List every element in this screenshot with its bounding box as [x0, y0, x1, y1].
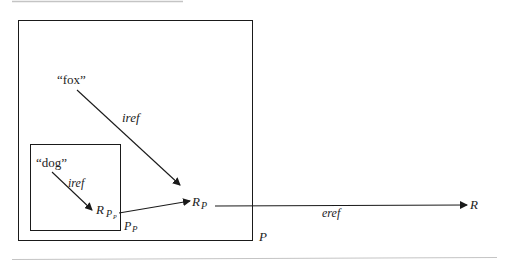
- svg-text:R: R: [95, 202, 104, 217]
- dog-label: “dog”: [36, 155, 67, 170]
- dog-iref-label: iref: [68, 176, 86, 190]
- outer-box-label: P: [258, 229, 267, 244]
- fox-iref-arrow: [77, 90, 180, 185]
- diagram-canvas: “fox” iref “dog” iref R P P R P P P P: [0, 0, 508, 269]
- inner-box-label: P P: [123, 219, 138, 234]
- svg-text:P: P: [112, 214, 117, 220]
- svg-text:R: R: [191, 194, 200, 209]
- outer-box-p: [19, 21, 253, 241]
- r-p-label: R P: [191, 194, 207, 211]
- bottom-rule: [12, 258, 497, 260]
- r-pp-label: R P P: [95, 202, 117, 220]
- diagram-svg: “fox” iref “dog” iref R P P R P P P P: [0, 0, 508, 269]
- r-label: R: [469, 197, 478, 212]
- eref-label: eref: [322, 206, 342, 220]
- fox-label: “fox”: [57, 72, 86, 87]
- svg-text:P: P: [131, 224, 138, 234]
- svg-text:P: P: [200, 200, 207, 211]
- svg-text:P: P: [105, 208, 112, 219]
- svg-text:P: P: [123, 219, 132, 233]
- fox-iref-label: iref: [122, 110, 142, 125]
- rpp-to-rp-arrow: [119, 201, 190, 213]
